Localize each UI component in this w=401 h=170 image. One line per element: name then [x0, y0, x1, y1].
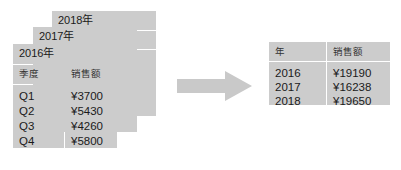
summary-column-header-amount: 销售额: [327, 42, 390, 61]
card-2016-cell-amount: ¥5800: [71, 136, 103, 148]
card-title-2016: 2016年: [13, 44, 117, 64]
card-2016-cell-quarter: Q4: [19, 136, 34, 148]
summary-column-header-year: 年: [269, 42, 326, 61]
summary-cell-year: 2016: [275, 68, 301, 80]
card-2016-cell-quarter: Q2: [19, 106, 34, 118]
card-2016-column-header-quarter: 季度: [13, 65, 64, 84]
right-arrow-icon: [177, 70, 253, 102]
card-2016-column-header-amount: 销售额: [65, 65, 117, 84]
card-2016-cell-amount: ¥5430: [71, 106, 103, 118]
card-2016-cell-quarter: Q3: [19, 121, 34, 133]
card-2016-cell-amount: ¥4260: [71, 121, 103, 133]
card-2016-cell-quarter: Q1: [19, 91, 34, 103]
summary-cell-year: 2017: [275, 82, 301, 94]
summary-cell-amount: ¥16238: [333, 82, 371, 94]
summary-cell-year: 2018: [275, 96, 301, 108]
summary-cell-amount: ¥19650: [333, 96, 371, 108]
diagram-canvas: 2018年 2017年 2016年 季度 销售额 Q1 ¥3700 Q2 ¥54…: [0, 0, 401, 170]
summary-cell-amount: ¥19190: [333, 68, 371, 80]
transform-arrow: [177, 70, 253, 102]
card-2016-cell-amount: ¥3700: [71, 91, 103, 103]
